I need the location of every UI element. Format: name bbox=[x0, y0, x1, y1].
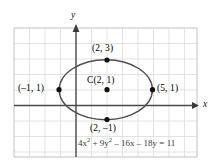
y-axis-label: y bbox=[71, 11, 75, 21]
x-axis bbox=[14, 102, 199, 109]
label-point-top-vertex: (2, 3) bbox=[92, 44, 113, 54]
point-center bbox=[104, 87, 109, 92]
ellipse-figure: (2, 3) C(2, 1) (–1, 1) (5, 1) (2, –1) x … bbox=[0, 0, 218, 163]
equation-tail: – 16x – 18y = 11 bbox=[112, 138, 175, 148]
label-point-bottom-vertex: (2, –1) bbox=[90, 124, 116, 134]
point-left-vertex bbox=[56, 87, 61, 92]
point-top-vertex bbox=[104, 57, 109, 62]
label-point-left-vertex: (–1, 1) bbox=[18, 84, 44, 94]
label-point-center: C(2, 1) bbox=[87, 76, 115, 86]
point-bottom-vertex bbox=[104, 117, 109, 122]
equation-annotation: 4x2 + 9y2 – 16x – 18y = 11 bbox=[78, 139, 175, 148]
equation-lead: 4x bbox=[78, 138, 87, 148]
label-point-right-vertex: (5, 1) bbox=[157, 84, 178, 94]
equation-plus: + 9y bbox=[90, 138, 109, 148]
point-right-vertex bbox=[150, 87, 155, 92]
x-axis-label: x bbox=[203, 100, 207, 110]
